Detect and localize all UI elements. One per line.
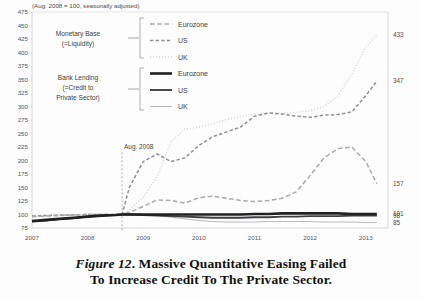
- legend-label-4: US: [178, 87, 188, 94]
- bank-lending-label-2: (=Credit to: [63, 84, 94, 92]
- caption-line-1: Figure 12. Massive Quantitative Easing F…: [0, 256, 422, 272]
- monetary-base-label-2: (=Liquidity): [62, 40, 94, 48]
- y-tick-label: 475: [18, 8, 29, 15]
- bank-lending-label-3: Private Sector): [56, 94, 100, 102]
- y-tick-label: 75: [21, 224, 28, 231]
- end-label-monetary-base-uk: 433: [393, 31, 404, 38]
- x-tick-label: 2007: [25, 234, 39, 241]
- legend-label-0: Eurozone: [178, 21, 208, 28]
- end-label-monetary-base-eurozone: 157: [393, 180, 404, 187]
- x-tick-label: 2009: [136, 234, 150, 241]
- caption-line-1-text: . Massive Quantitative Easing Failed: [132, 256, 347, 271]
- y-tick-label: 450: [18, 22, 29, 29]
- x-tick-label: 2008: [81, 234, 95, 241]
- caption-line-2: To Increase Credit To The Private Sector…: [0, 272, 422, 288]
- x-tick-label: 2013: [359, 234, 373, 241]
- y-tick-label: 200: [18, 157, 29, 164]
- figure-number: Figure 12: [76, 256, 132, 271]
- aug-2008-annotation-label: Aug. 2008: [124, 143, 154, 151]
- legend-label-3: Eurozone: [178, 70, 208, 77]
- end-label-bank-lending-us: 98: [393, 212, 401, 219]
- bank-lending-label-1: Bank Lending: [58, 74, 99, 82]
- legend-label-5: UK: [178, 103, 188, 110]
- y-tick-label: 350: [18, 76, 29, 83]
- chart-plot-area: 7510012515017520022525027530032535037540…: [0, 0, 422, 252]
- y-tick-label: 150: [18, 184, 29, 191]
- x-tick-label: 2010: [192, 234, 206, 241]
- legend-label-2: UK: [178, 54, 188, 61]
- y-axis-tick-labels: 7510012515017520022525027530032535037540…: [18, 8, 29, 231]
- y-tick-label: 400: [18, 49, 29, 56]
- y-tick-label: 225: [18, 143, 29, 150]
- x-tick-label: 2012: [303, 234, 317, 241]
- monetary-base-label-1: Monetary Base: [56, 30, 101, 38]
- figure-container: 7510012515017520022525027530032535037540…: [0, 0, 422, 299]
- y-tick-label: 100: [18, 211, 29, 218]
- y-tick-label: 300: [18, 103, 29, 110]
- y-tick-label: 375: [18, 62, 29, 69]
- legend-label-1: US: [178, 37, 188, 44]
- y-tick-label: 425: [18, 35, 29, 42]
- y-tick-label: 275: [18, 116, 29, 123]
- y-tick-label: 325: [18, 89, 29, 96]
- x-tick-label: 2011: [248, 234, 262, 241]
- y-tick-label: 250: [18, 130, 29, 137]
- chart-subtitle: (Aug. 2008 = 100, seasonally adjusted): [32, 2, 140, 9]
- y-tick-label: 125: [18, 197, 29, 204]
- end-label-monetary-base-us: 347: [393, 77, 404, 84]
- y-tick-label: 175: [18, 170, 29, 177]
- figure-caption: Figure 12. Massive Quantitative Easing F…: [0, 256, 422, 288]
- end-label-bank-lending-uk: 85: [393, 219, 401, 226]
- line-chart: 7510012515017520022525027530032535037540…: [0, 0, 422, 252]
